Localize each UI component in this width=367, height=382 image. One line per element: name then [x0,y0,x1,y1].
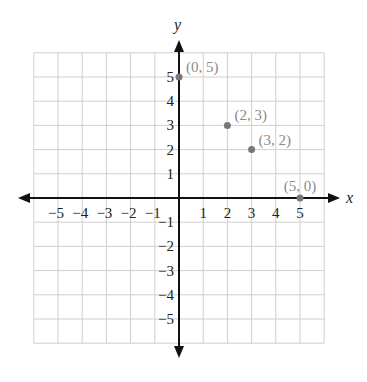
y-tick-label: −1 [158,214,174,230]
y-tick-label: −3 [158,263,174,279]
x-axis-label: x [345,189,353,206]
x-axis-right-arrow [328,193,340,203]
x-tick-label: −4 [72,205,88,221]
x-tick-label: 4 [272,205,280,221]
x-tick-label: 1 [199,205,207,221]
data-point [248,146,255,153]
data-point [176,74,183,81]
y-tick-label: −5 [158,311,174,327]
data-points: (0, 5)(2, 3)(3, 2)(5, 0) [176,59,317,202]
y-axis-bottom-arrow [174,346,184,358]
y-tick-label: 5 [167,69,175,85]
data-point-label: (3, 2) [259,132,292,149]
x-tick-label: −5 [48,205,64,221]
x-tick-label: 3 [248,205,256,221]
coordinate-plane: x y −5−4−3−2−11234554321−1−2−3−4−5 (0, 5… [0,0,367,382]
x-axis-left-arrow [18,193,30,203]
y-axis-label: y [172,16,182,34]
x-tick-label: 5 [296,205,304,221]
x-tick-label: 2 [224,205,232,221]
y-tick-label: 4 [167,93,175,109]
x-tick-label: −2 [121,205,137,221]
y-tick-label: 1 [167,166,175,182]
data-point [297,195,304,202]
y-tick-label: −2 [158,238,174,254]
x-tick-label: −3 [96,205,112,221]
data-point-label: (5, 0) [284,178,317,195]
data-point [224,122,231,129]
y-tick-label: −4 [158,287,174,303]
y-axis-top-arrow [174,40,184,52]
y-tick-label: 3 [167,117,175,133]
data-point-label: (0, 5) [186,59,219,76]
data-point-label: (2, 3) [234,107,267,124]
y-tick-label: 2 [167,142,175,158]
